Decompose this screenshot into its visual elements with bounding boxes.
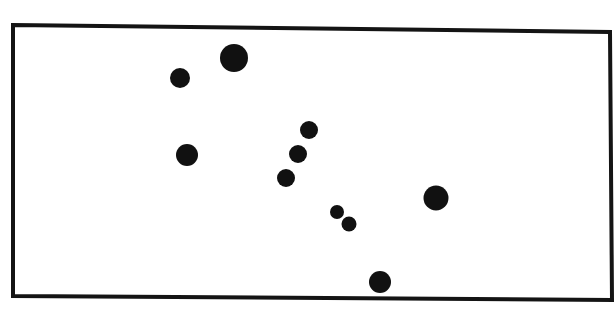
frame-rectangle	[13, 25, 612, 300]
dot-diagram	[0, 0, 616, 318]
dot-10	[369, 271, 391, 293]
dot-3	[176, 144, 198, 166]
dot-4	[300, 121, 318, 139]
dot-8	[342, 217, 357, 232]
dot-6	[277, 169, 295, 187]
dot-5	[289, 145, 307, 163]
dot-7	[330, 205, 344, 219]
dot-9	[424, 186, 449, 211]
dot-1	[220, 44, 248, 72]
dot-group	[170, 44, 449, 293]
dot-2	[170, 68, 190, 88]
